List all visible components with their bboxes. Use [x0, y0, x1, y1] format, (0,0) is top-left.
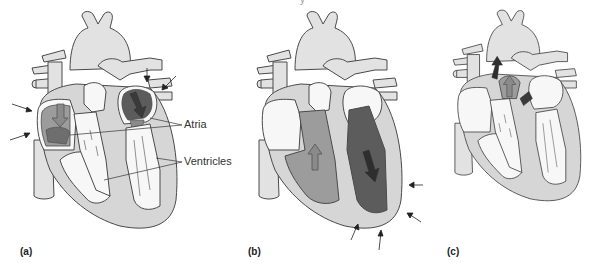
heart-diagram-b: [225, 0, 425, 268]
heart-diagram-a: [0, 0, 200, 268]
callout-atria: Atria: [184, 118, 207, 130]
panel-label-c: (c): [447, 246, 459, 257]
heart-diagram-c: [425, 0, 601, 268]
panel-label-b: (b): [248, 246, 261, 257]
panel-b: (b): [225, 0, 425, 268]
panel-c: (c): [425, 0, 601, 268]
panel-a: (a): [0, 0, 200, 268]
panel-label-a: (a): [20, 246, 32, 257]
